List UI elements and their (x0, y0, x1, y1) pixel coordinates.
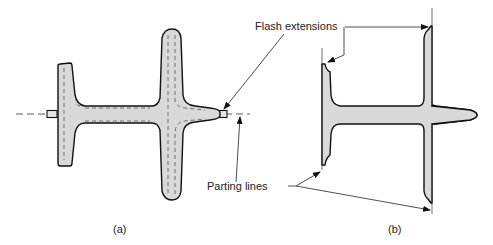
parting-lines-label: Parting lines (207, 180, 268, 192)
part-outline-a (58, 29, 220, 200)
forging-flash-diagram: Flash extensions Parting lines (a) (b) (0, 0, 493, 245)
parting-lines-callout: Parting lines (207, 117, 430, 210)
panel-b-part (322, 8, 477, 214)
flash-extensions-label: Flash extensions (255, 20, 338, 32)
caption-b: (b) (388, 223, 401, 235)
part-stub-b (432, 106, 477, 124)
panel-a-part (16, 29, 250, 200)
flash-tab-left (47, 111, 57, 118)
caption-a: (a) (113, 223, 126, 235)
stub-joint (429, 107, 434, 123)
